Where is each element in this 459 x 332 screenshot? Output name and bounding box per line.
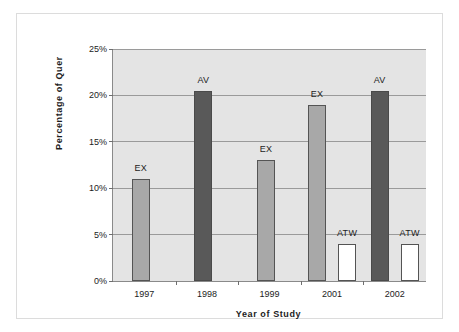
x-axis-tick-mark [301,281,302,285]
bar-2002-av [371,91,389,281]
chart-figure: Percentage of Quer Year of Study 0%5%10%… [0,0,459,332]
bar-1997-ex [132,179,150,281]
bar-1998-av [194,91,212,281]
y-axis-tick-mark [109,281,113,282]
bar-label-2002-av: AV [374,75,386,85]
x-axis-title: Year of Study [112,309,425,319]
bar-2001-atw [338,244,356,281]
y-axis-tick-mark [109,95,113,96]
bar-1999-ex [257,160,275,281]
x-axis-tick-label: 2002 [385,289,405,299]
x-axis-tick-label: 1999 [259,289,279,299]
y-axis-tick-label: 5% [94,230,107,240]
y-axis-tick-mark [109,49,113,50]
bar-label-2001-atw: ATW [337,228,357,238]
y-axis-title: Percentage of Quer [54,23,64,183]
x-axis-tick-label: 1998 [197,289,217,299]
bar-2001-ex [308,105,326,281]
y-axis-tick-label: 25% [89,44,107,54]
y-axis-tick-label: 0% [94,276,107,286]
x-axis-tick-mark [238,281,239,285]
y-axis-tick-mark [109,141,113,142]
y-axis-tick-label: 10% [89,183,107,193]
bar-label-2002-atw: ATW [400,228,420,238]
y-axis-tick-label: 15% [89,137,107,147]
x-axis-tick-mark [363,281,364,285]
x-axis-tick-label: 1997 [134,289,154,299]
figure-frame: Percentage of Quer Year of Study 0%5%10%… [16,13,443,319]
bar-label-1997-ex: EX [134,163,147,173]
y-axis-tick-mark [109,234,113,235]
y-axis-tick-label: 20% [89,90,107,100]
gridline [113,49,426,50]
bar-label-1999-ex: EX [260,144,273,154]
plot-area: 0%5%10%15%20%25%19971998199920012002EXAV… [112,49,426,282]
x-axis-tick-mark [176,281,177,285]
y-axis-tick-mark [109,188,113,189]
bar-label-2001-ex: EX [311,89,324,99]
x-axis-tick-label: 2001 [322,289,342,299]
bar-2002-atw [401,244,419,281]
bar-label-1998-av: AV [197,75,209,85]
